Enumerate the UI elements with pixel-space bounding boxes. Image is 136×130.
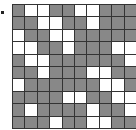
grid-cell-2-8[interactable] [100,17,112,29]
grid-cell-10-3[interactable] [38,117,50,129]
grid-cell-1-3[interactable] [38,5,50,17]
grid-cell-2-4[interactable] [50,17,62,29]
grid-cell-4-5[interactable] [63,42,75,54]
grid-cell-3-8[interactable] [100,30,112,42]
grid-cell-7-3[interactable] [38,79,50,91]
grid-cell-6-7[interactable] [87,67,99,79]
grid-cell-4-1[interactable] [13,42,25,54]
grid-cell-3-5[interactable] [63,30,75,42]
grid-cell-3-4[interactable] [50,30,62,42]
grid-cell-7-1[interactable] [13,79,25,91]
grid-cell-2-5[interactable] [63,17,75,29]
grid-cell-1-6[interactable] [75,5,87,17]
grid-cell-3-9[interactable] [112,30,124,42]
grid-cell-7-9[interactable] [112,79,124,91]
grid-cell-1-8[interactable] [100,5,112,17]
grid-cell-8-4[interactable] [50,92,62,104]
grid-cell-7-8[interactable] [100,79,112,91]
grid-cell-10-1[interactable] [13,117,25,129]
grid-cell-1-5[interactable] [63,5,75,17]
grid-cell-6-4[interactable] [50,67,62,79]
grid-cell-3-6[interactable] [75,30,87,42]
grid-cell-4-10[interactable] [125,42,136,54]
grid-cell-4-9[interactable] [112,42,124,54]
grid-cell-7-6[interactable] [75,79,87,91]
grid-cell-8-1[interactable] [13,92,25,104]
grid-cell-3-10[interactable] [125,30,136,42]
grid-cell-8-5[interactable] [63,92,75,104]
grid-cell-9-5[interactable] [63,104,75,116]
grid-cell-2-7[interactable] [87,17,99,29]
grid-cell-8-9[interactable] [112,92,124,104]
grid-cell-4-7[interactable] [87,42,99,54]
grid-cell-1-9[interactable] [112,5,124,17]
grid-cell-8-7[interactable] [87,92,99,104]
grid-cell-9-8[interactable] [100,104,112,116]
grid-cell-4-6[interactable] [75,42,87,54]
grid-cell-5-10[interactable] [125,55,136,67]
grid-cell-5-3[interactable] [38,55,50,67]
grid-cell-9-2[interactable] [25,104,37,116]
grid-cell-5-7[interactable] [87,55,99,67]
grid-cell-5-4[interactable] [50,55,62,67]
grid-cell-7-10[interactable] [125,79,136,91]
grid-cell-6-2[interactable] [25,67,37,79]
grid-cell-3-3[interactable] [38,30,50,42]
grid-cell-7-2[interactable] [25,79,37,91]
grid-cell-6-6[interactable] [75,67,87,79]
grid-cell-2-9[interactable] [112,17,124,29]
grid-cell-5-6[interactable] [75,55,87,67]
grid-cell-6-5[interactable] [63,67,75,79]
grid-cell-2-6[interactable] [75,17,87,29]
grid-cell-1-2[interactable] [25,5,37,17]
grid-cell-6-3[interactable] [38,67,50,79]
grid-cell-10-7[interactable] [87,117,99,129]
grid-cell-8-10[interactable] [125,92,136,104]
grid-cell-5-2[interactable] [25,55,37,67]
grid-cell-2-2[interactable] [25,17,37,29]
grid-cell-1-7[interactable] [87,5,99,17]
grid-cell-3-2[interactable] [25,30,37,42]
grid-cell-8-6[interactable] [75,92,87,104]
grid-cell-10-2[interactable] [25,117,37,129]
grid-cell-1-1[interactable] [13,5,25,17]
grid-cell-4-3[interactable] [38,42,50,54]
grid-cell-6-9[interactable] [112,67,124,79]
grid-cell-10-8[interactable] [100,117,112,129]
grid-cell-8-8[interactable] [100,92,112,104]
grid-cell-10-5[interactable] [63,117,75,129]
grid-cell-7-4[interactable] [50,79,62,91]
grid-cell-5-8[interactable] [100,55,112,67]
grid-cell-2-10[interactable] [125,17,136,29]
grid-cell-10-9[interactable] [112,117,124,129]
grid-cell-10-6[interactable] [75,117,87,129]
grid-cell-5-5[interactable] [63,55,75,67]
grid-cell-9-9[interactable] [112,104,124,116]
grid-cell-6-10[interactable] [125,67,136,79]
grid-cell-9-10[interactable] [125,104,136,116]
grid-cell-7-5[interactable] [63,79,75,91]
grid-cell-9-1[interactable] [13,104,25,116]
grid-cell-4-2[interactable] [25,42,37,54]
grid-cell-8-3[interactable] [38,92,50,104]
grid-cell-2-1[interactable] [13,17,25,29]
grid-cell-9-7[interactable] [87,104,99,116]
grid-cell-10-10[interactable] [125,117,136,129]
grid-cell-4-8[interactable] [100,42,112,54]
grid-cell-5-1[interactable] [13,55,25,67]
grid-cell-3-1[interactable] [13,30,25,42]
grid-cell-9-4[interactable] [50,104,62,116]
grid-cell-6-1[interactable] [13,67,25,79]
grid-cell-5-9[interactable] [112,55,124,67]
grid-cell-1-4[interactable] [50,5,62,17]
grid-cell-3-7[interactable] [87,30,99,42]
grid-cell-2-3[interactable] [38,17,50,29]
grid-cell-10-4[interactable] [50,117,62,129]
grid-cell-9-3[interactable] [38,104,50,116]
grid-cell-4-4[interactable] [50,42,62,54]
grid-cell-8-2[interactable] [25,92,37,104]
grid-cell-6-8[interactable] [100,67,112,79]
grid-cell-1-10[interactable] [125,5,136,17]
grid-cell-7-7[interactable] [87,79,99,91]
grid-cell-9-6[interactable] [75,104,87,116]
